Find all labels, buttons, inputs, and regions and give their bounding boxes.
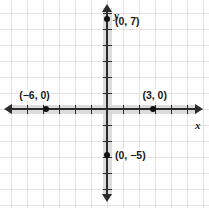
point-label: (0, −5) (114, 149, 147, 161)
plotted-point-dot (150, 106, 156, 112)
plotted-point-dot (104, 152, 110, 158)
x-axis-label: x (195, 120, 201, 131)
plotted-point-dot (104, 16, 110, 22)
y-axis-label: y (114, 10, 119, 21)
coordinate-plane-figure: (0, 7)(−6, 0)(3, 0)(0, −5) y x (0, 0, 209, 208)
plotted-points-layer: (0, 7)(−6, 0)(3, 0)(0, −5) (0, 0, 209, 208)
point-label: (3, 0) (141, 89, 168, 101)
plotted-point-dot (43, 106, 49, 112)
point-label: (−6, 0) (18, 89, 51, 101)
